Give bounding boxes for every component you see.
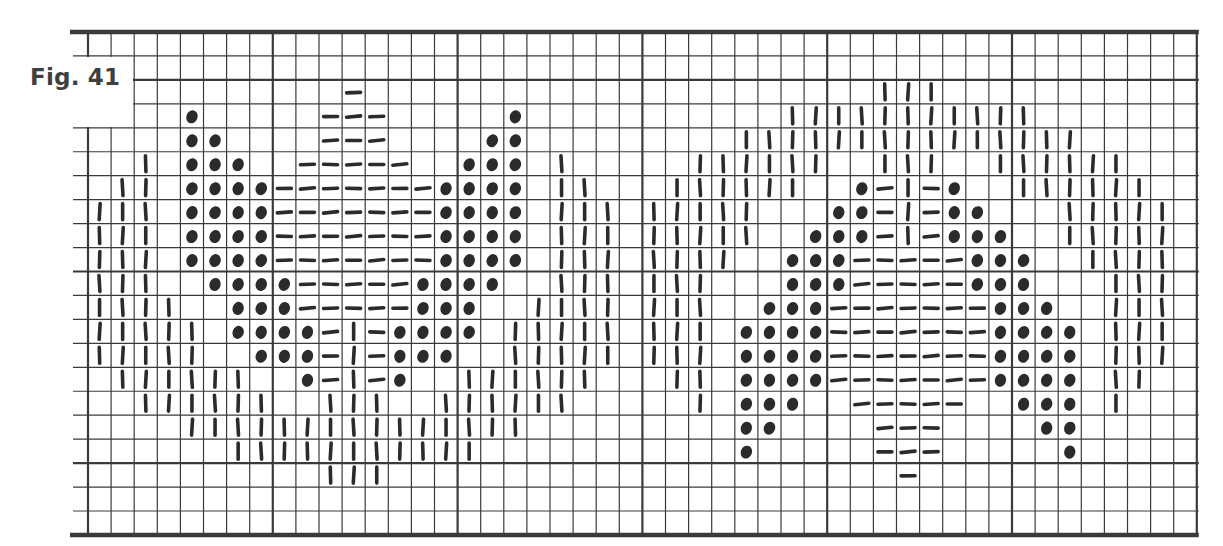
vertical-bar-symbol bbox=[515, 347, 516, 363]
vertical-bar-symbol bbox=[908, 204, 909, 220]
dot-symbol bbox=[1016, 348, 1031, 364]
dash-symbol bbox=[324, 188, 338, 189]
dot-symbol bbox=[438, 324, 454, 341]
dash-symbol bbox=[924, 332, 938, 333]
dot-symbol bbox=[1063, 325, 1077, 341]
dash-symbol bbox=[416, 188, 430, 189]
vertical-bar-symbol bbox=[700, 299, 701, 315]
dot-symbol bbox=[485, 180, 500, 196]
dash-symbol bbox=[901, 260, 915, 261]
dot-symbol bbox=[739, 420, 754, 436]
dash-symbol bbox=[370, 308, 384, 309]
dot-symbol bbox=[300, 348, 315, 364]
dot-symbol bbox=[230, 276, 245, 292]
vertical-bar-symbol bbox=[330, 443, 331, 459]
vertical-bar-symbol bbox=[445, 395, 446, 411]
dot-symbol bbox=[207, 204, 223, 221]
dot-symbol bbox=[508, 133, 523, 149]
dot-symbol bbox=[1039, 396, 1054, 412]
dot-symbol bbox=[762, 300, 778, 317]
dash-symbol bbox=[324, 308, 338, 309]
vertical-bar-symbol bbox=[977, 108, 978, 124]
dash-symbol bbox=[324, 260, 338, 261]
vertical-bar-symbol bbox=[353, 467, 354, 483]
dot-symbol bbox=[739, 444, 754, 460]
vertical-bar-symbol bbox=[1162, 299, 1163, 315]
dash-symbol bbox=[300, 188, 314, 189]
vertical-bar-symbol bbox=[330, 395, 331, 411]
dot-symbol bbox=[993, 348, 1008, 364]
dot-symbol bbox=[947, 180, 962, 196]
dash-symbol bbox=[947, 379, 961, 380]
dot-symbol bbox=[785, 252, 800, 268]
vertical-bar-symbol bbox=[792, 156, 793, 172]
dash-symbol bbox=[347, 164, 361, 165]
vertical-bar-symbol bbox=[192, 419, 193, 435]
vertical-bar-symbol bbox=[145, 204, 146, 220]
dot-symbol bbox=[485, 228, 500, 244]
dash-symbol bbox=[855, 403, 869, 404]
dash-symbol bbox=[347, 236, 361, 237]
dot-symbol bbox=[854, 204, 869, 220]
dot-symbol bbox=[254, 325, 268, 341]
dot-symbol bbox=[231, 181, 245, 197]
dot-symbol bbox=[808, 276, 823, 292]
dot-symbol bbox=[808, 228, 824, 245]
dot-symbol bbox=[1040, 420, 1054, 436]
dot-symbol bbox=[300, 324, 315, 340]
dot-symbol bbox=[485, 157, 500, 173]
vertical-bar-symbol bbox=[815, 108, 816, 124]
dot-symbol bbox=[762, 372, 776, 388]
dash-symbol bbox=[277, 212, 291, 213]
dash-symbol bbox=[924, 212, 938, 213]
dash-symbol bbox=[347, 116, 361, 117]
dot-symbol bbox=[762, 396, 777, 412]
dot-symbol bbox=[809, 301, 823, 317]
dot-symbol bbox=[231, 301, 245, 317]
dot-symbol bbox=[785, 300, 800, 316]
vertical-bar-symbol bbox=[584, 228, 585, 244]
dash-symbol bbox=[370, 356, 384, 357]
dot-symbol bbox=[855, 181, 870, 197]
dot-symbol bbox=[254, 348, 269, 364]
dot-symbol bbox=[300, 372, 314, 388]
dash-symbol bbox=[924, 236, 938, 237]
dot-symbol bbox=[831, 252, 847, 269]
dash-symbol bbox=[370, 379, 384, 380]
vertical-bar-symbol bbox=[1162, 228, 1163, 244]
dot-symbol bbox=[185, 253, 199, 269]
vertical-bar-symbol bbox=[122, 299, 123, 315]
dot-symbol bbox=[1062, 348, 1077, 364]
dot-symbol bbox=[462, 301, 476, 317]
vertical-bar-symbol bbox=[954, 132, 955, 148]
vertical-bar-symbol bbox=[145, 371, 146, 387]
vertical-bar-symbol bbox=[769, 180, 770, 196]
dash-symbol bbox=[901, 428, 915, 429]
dot-symbol bbox=[1016, 277, 1030, 293]
dash-symbol bbox=[324, 212, 338, 213]
dash-symbol bbox=[324, 331, 338, 332]
dot-symbol bbox=[785, 324, 801, 341]
vertical-bar-symbol bbox=[861, 108, 862, 124]
dot-symbol bbox=[277, 348, 291, 364]
dot-symbol bbox=[739, 372, 754, 388]
dot-symbol bbox=[184, 157, 199, 173]
vertical-bar-symbol bbox=[1162, 347, 1163, 363]
vertical-bar-symbol bbox=[214, 395, 215, 411]
dot-symbol bbox=[415, 300, 431, 317]
vertical-bar-symbol bbox=[99, 323, 100, 339]
dot-symbol bbox=[1016, 324, 1032, 341]
dot-symbol bbox=[393, 348, 407, 364]
dash-symbol bbox=[947, 356, 961, 357]
dot-symbol bbox=[231, 253, 246, 269]
dot-symbol bbox=[184, 109, 199, 125]
vertical-bar-symbol bbox=[907, 156, 908, 172]
dot-symbol bbox=[484, 252, 500, 269]
vertical-bar-symbol bbox=[168, 395, 169, 411]
vertical-bar-symbol bbox=[700, 228, 701, 244]
dash-symbol bbox=[970, 380, 984, 381]
dot-symbol bbox=[507, 156, 523, 173]
vertical-bar-symbol bbox=[700, 180, 701, 196]
dash-symbol bbox=[393, 164, 407, 165]
dot-symbol bbox=[947, 228, 962, 244]
